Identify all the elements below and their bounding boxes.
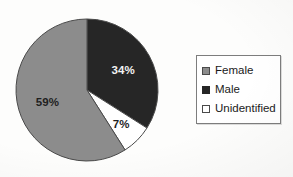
pie-slices: [16, 19, 158, 161]
pie-chart: 34% 7% 59% Female Male Unidentified: [0, 0, 293, 177]
pie-label-unidentified: 7%: [113, 118, 130, 130]
legend-swatch-icon-female: [202, 67, 210, 75]
legend-item-male[interactable]: Male: [202, 80, 280, 99]
chart-legend: Female Male Unidentified: [196, 55, 281, 124]
legend-item-female[interactable]: Female: [202, 61, 280, 80]
pie-label-female: 59%: [36, 96, 59, 108]
legend-label-male: Male: [215, 80, 240, 99]
legend-label-female: Female: [215, 61, 253, 80]
legend-swatch-icon-male: [202, 86, 210, 94]
pie-svg: 34% 7% 59%: [0, 0, 180, 177]
pie-plot-area: 34% 7% 59%: [0, 0, 180, 177]
pie-label-male: 34%: [111, 64, 134, 76]
legend-item-unidentified[interactable]: Unidentified: [202, 99, 280, 118]
legend-swatch-icon-unidentified: [202, 105, 210, 113]
legend-label-unidentified: Unidentified: [215, 99, 276, 118]
